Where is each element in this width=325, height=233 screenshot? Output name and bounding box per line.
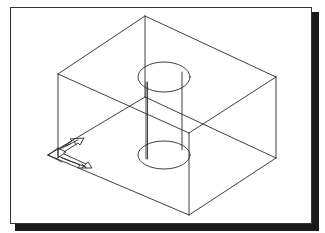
ucs-icon [48, 138, 92, 168]
block-vertical-edges [58, 16, 276, 215]
block-bottom-face [48, 97, 276, 215]
block-top-face [58, 16, 276, 133]
cylinder-hole [138, 62, 190, 169]
wireframe-drawing [0, 0, 325, 233]
